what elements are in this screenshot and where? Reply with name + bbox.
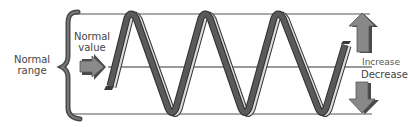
increase-label: Increase (362, 57, 400, 68)
normal-value-arrow-icon (80, 54, 106, 80)
normal-range-brace-icon (62, 12, 80, 119)
normal-value-label-line2: value (72, 42, 112, 53)
normal-range-label-line2: range (4, 65, 60, 76)
normal-range-label-line1: Normal (4, 54, 60, 65)
normal-value-label: Normal value (72, 31, 112, 53)
normal-range-label: Normal range (4, 54, 60, 76)
decrease-arrow-icon (349, 82, 379, 114)
normal-value-label-line1: Normal (72, 31, 112, 42)
decrease-label: Decrease (361, 69, 408, 80)
oscillation-wave (104, 14, 351, 114)
increase-arrow-icon (349, 13, 378, 53)
